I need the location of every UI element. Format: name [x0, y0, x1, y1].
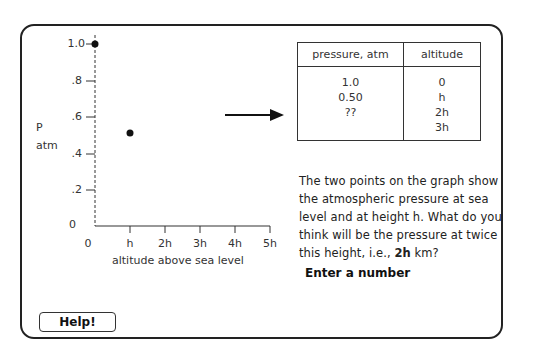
column-header-altitude: altitude	[404, 43, 481, 67]
question-text: The two points on the graph show the atm…	[299, 172, 514, 262]
x-tick-label: 4h	[223, 237, 247, 250]
pressure-altitude-table: pressure, atm altitude 1.0 0 0.50 h ?? 2…	[297, 42, 481, 141]
help-button[interactable]: Help!	[39, 312, 116, 332]
cell-pressure: ??	[298, 105, 404, 120]
x-tick-label: 3h	[188, 237, 212, 250]
table-row: 1.0 0	[298, 67, 481, 91]
cell-pressure: 0.50	[298, 90, 404, 105]
cell-altitude: h	[404, 90, 481, 105]
y-tick-label: 1.0	[55, 37, 85, 50]
cell-altitude: 2h	[404, 105, 481, 120]
x-tick-label: 2h	[153, 237, 177, 250]
x-tick-label: h	[118, 237, 142, 250]
table-row: ?? 2h	[298, 105, 481, 120]
y-tick-label: 0	[46, 218, 76, 231]
cell-pressure: 1.0	[298, 67, 404, 91]
y-axis-label: P	[36, 121, 43, 134]
cell-altitude: 0	[404, 67, 481, 91]
y-tick-label: .4	[52, 147, 82, 160]
column-header-pressure: pressure, atm	[298, 43, 404, 67]
data-point	[127, 130, 134, 137]
y-tick-label: .2	[52, 183, 82, 196]
y-tick-label: .6	[52, 110, 82, 123]
question-emphasis: 2h	[394, 246, 410, 260]
y-tick-label: .8	[52, 74, 82, 87]
x-tick-label: 0	[76, 237, 100, 250]
cell-pressure	[298, 120, 404, 141]
cell-altitude: 3h	[404, 120, 481, 141]
data-point	[92, 41, 99, 48]
table-row: 3h	[298, 120, 481, 141]
x-axis-title: altitude above sea level	[112, 254, 244, 267]
enter-number-prompt[interactable]: Enter a number	[305, 266, 410, 280]
table-row: 0.50 h	[298, 90, 481, 105]
x-tick-label: 5h	[258, 237, 282, 250]
